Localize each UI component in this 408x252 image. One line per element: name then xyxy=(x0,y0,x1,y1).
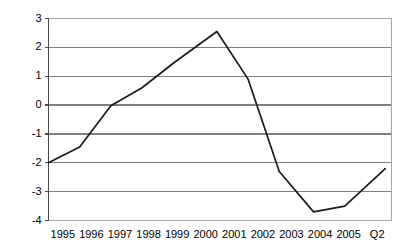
y-axis-tick-label: 1 xyxy=(18,70,42,81)
y-axis-tick-label: 2 xyxy=(18,41,42,52)
y-axis-tick-label: 3 xyxy=(18,13,42,24)
y-axis-tick-label: 0 xyxy=(18,99,42,110)
x-axis-tick-label: Q2 xyxy=(357,229,397,240)
chart-plot-area xyxy=(0,0,408,252)
y-axis-tick-label: -1 xyxy=(18,128,42,139)
y-axis-tick-label: -4 xyxy=(18,215,42,226)
line-chart: 3210-1-2-3-4 199519961997199819992000200… xyxy=(0,0,408,252)
data-series-line xyxy=(49,31,386,211)
y-axis-tick-label: -3 xyxy=(18,186,42,197)
y-axis-tick-label: -2 xyxy=(18,157,42,168)
